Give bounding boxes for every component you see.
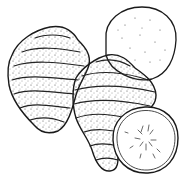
illustration: Pen-and-ink illustration of two whole ri… [0,0,187,181]
lower-slice [113,107,178,173]
